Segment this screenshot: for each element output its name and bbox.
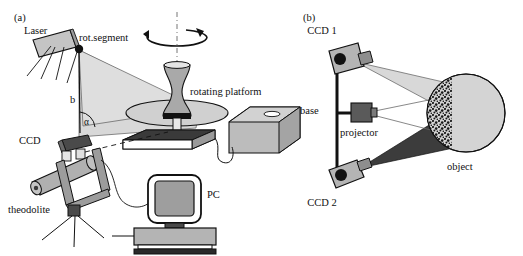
object-sphere [427, 74, 505, 152]
pc-workstation [112, 175, 216, 254]
theodolite-device [29, 148, 110, 247]
projector-label: projector [340, 127, 378, 138]
diagram-svg: (a) [0, 0, 523, 256]
laser-label: Laser [24, 25, 48, 36]
rotation-arrow-icon [143, 28, 207, 46]
vase-object [163, 62, 191, 119]
base-label: base [300, 105, 319, 116]
projector-device [351, 103, 377, 122]
rot-segment-pivot [75, 45, 83, 53]
controller-box [229, 107, 300, 153]
ccd2-camera [329, 158, 372, 188]
theodolite-label: theodolite [8, 204, 50, 215]
panel-a: (a) [8, 12, 300, 254]
object-label: object [447, 161, 473, 172]
ccd-label-a: CCD [19, 135, 41, 146]
pc-label: PC [207, 189, 220, 200]
rot-segment-label: rot.segment [79, 32, 128, 43]
panel-a-label: (a) [14, 12, 26, 24]
baseline-b-label: b [70, 94, 75, 105]
panel-b-label: (b) [303, 12, 316, 24]
ccd1-camera [329, 43, 373, 74]
ccd2-label: CCD 2 [307, 197, 336, 208]
angle-symbol-label: α [84, 117, 89, 127]
figure-container: (a) [0, 0, 523, 256]
panel-b: (b) base object [300, 12, 505, 208]
rotating-platform-label: rotating platform [190, 86, 261, 97]
monitor-screen [155, 181, 194, 216]
ccd1-label: CCD 1 [307, 25, 336, 36]
